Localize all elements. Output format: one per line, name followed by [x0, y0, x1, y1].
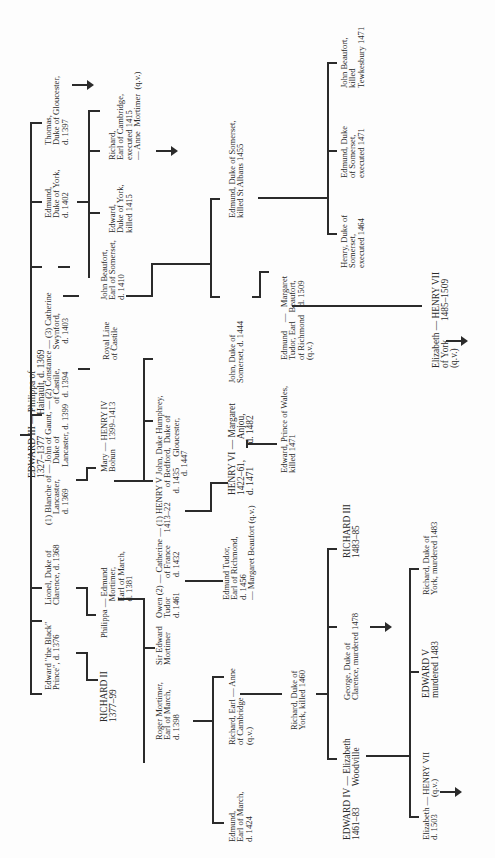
connector [126, 295, 152, 297]
node-john-beaufort: John Beaufort, Earl of Somerset, d. 1410 [100, 240, 125, 300]
node-edmund-tudor-margaret: Edmund — Margaret Tudor, Earl Beaufort, … [280, 276, 314, 360]
connector [327, 626, 337, 628]
connector [327, 62, 329, 235]
continuation-arrow-icon [440, 791, 456, 793]
connector [30, 414, 42, 416]
node-richard-cambridge: Richard, Earl — Anne of Cambridge (q.v.) [228, 668, 253, 745]
node-edmund-york: Edmund, Duke of York, d. 1402 [44, 169, 69, 218]
connector [88, 150, 100, 152]
connector [86, 614, 96, 616]
connector [210, 482, 212, 512]
connector [151, 263, 153, 297]
connector [143, 358, 153, 360]
connector [409, 568, 419, 570]
connector [88, 110, 100, 112]
continuation-arrow-icon [370, 626, 386, 628]
node-henry-somerset: Henry, Duke of Somerset, executed 1464 [340, 215, 365, 268]
connector [143, 647, 155, 649]
connector [30, 122, 32, 694]
connector [259, 271, 261, 298]
connector [212, 822, 224, 824]
connector [114, 480, 144, 482]
connector [210, 198, 220, 200]
connector [143, 598, 145, 763]
connector [143, 480, 153, 482]
node-edward-prince-wales: Edward, Prince of Wales, killed 1471 [280, 386, 297, 473]
continuation-arrow-icon [72, 84, 88, 86]
connector [327, 548, 329, 760]
node-elizabeth-1503: Elizabeth — HENRY VII d. 1503 (q.v.) [422, 752, 439, 840]
connector [86, 652, 88, 680]
connector [86, 467, 96, 469]
connector [247, 443, 277, 445]
connector [58, 266, 70, 268]
connector [292, 305, 422, 307]
connector [88, 110, 90, 278]
node-mary-henry-iv: Mary — HENRY IV Bohun 1399–1413 [100, 400, 117, 472]
node-john-of-gaunt-family: (1) Blanche of — John of Gaunt, — (2) Co… [44, 292, 69, 525]
connector [327, 758, 337, 760]
connector [240, 693, 282, 695]
connector [366, 755, 410, 757]
connector [63, 295, 79, 297]
continuation-arrow-icon [446, 340, 462, 342]
connector [86, 679, 98, 681]
node-edward-iv: EDWARD IV — Elizabeth 1461–83 Woodville [343, 738, 361, 840]
connector [151, 263, 211, 265]
node-richard-ii: RICHARD II 1377–99 [100, 671, 118, 722]
connector [327, 548, 337, 550]
connector [86, 467, 88, 481]
connector [30, 620, 42, 622]
node-richard-iii: RICHARD III 1483–85 [343, 504, 361, 558]
node-george-clarence: George, Duke of Clarence, murdered 1478 [343, 613, 360, 700]
node-owen-catherine-henry-v: Owen (2) — Catherine — (1) HENRY V John,… [155, 395, 189, 618]
node-royal-castile: Royal Line of Castile [102, 322, 119, 360]
connector [88, 212, 100, 214]
connector [327, 62, 337, 64]
connector [409, 671, 419, 673]
connector [86, 587, 88, 615]
node-henry-vi: HENRY VI — Margaret 1422–61, Anjou, d. 1… [228, 403, 255, 495]
node-sir-edward-mortimer: Sir Edward Mortimer [155, 626, 172, 665]
connector [259, 271, 269, 273]
connector [30, 201, 42, 203]
node-philippa-mortimer: Philippa — Edmund Mortimer, Earl of Marc… [100, 551, 134, 638]
connector [409, 568, 411, 818]
connector [185, 510, 211, 512]
continuation-arrow-icon [156, 150, 172, 152]
connector [327, 233, 337, 235]
connector [327, 150, 337, 152]
node-roger-mortimer: Roger Mortimer, Earl of March, d. 1398 [155, 682, 180, 740]
connector [118, 598, 144, 600]
connector [143, 420, 153, 422]
node-thomas-gloucester: Thomas, Duke of Gloucester, d. 1397 [44, 76, 69, 145]
connector [30, 266, 42, 268]
connector [212, 676, 214, 824]
node-richard-york-1483: Richard, Duke of York, murdered 1483 [422, 522, 439, 595]
family-tree-diagram: EDWARD III — Philippa of 1327–1377 Haina… [0, 0, 495, 858]
node-john-beaufort-tewkesbury: John Beaufort, killed Tewkesbury 1471 [340, 27, 365, 88]
connector [20, 434, 32, 436]
connector [258, 197, 328, 199]
node-edmund-march: Edmund, Earl of March, d. 1424 [228, 792, 253, 842]
connector [409, 816, 419, 818]
connector [246, 440, 248, 448]
connector [76, 479, 86, 481]
node-edmund-somerset: Edmund, Duke of Somerset, killed St Alba… [228, 120, 245, 218]
node-edward-v: EDWARD V murdered 1483 [422, 641, 440, 698]
connector [30, 122, 42, 124]
node-edmund-duke-somerset: Edmund, Duke of Somerset, executed 1471 [340, 126, 365, 178]
connector [78, 368, 90, 370]
node-edward-york: Edward, Duke of York, killed 1415 [108, 184, 133, 233]
connector [210, 482, 228, 484]
connector [210, 198, 212, 298]
connector [30, 587, 42, 589]
connector [193, 720, 213, 722]
node-black-prince: Edward "the Black" Prince", d. 1376 [44, 621, 61, 690]
node-edmund-tudor: Edmund Tudor, Earl of Richmond, d. 1456 … [222, 506, 256, 601]
node-richard-york: Richard, Duke of York, killed 1460 [290, 670, 307, 730]
connector [30, 693, 42, 695]
node-lionel: Lionel, Duke of Clarence, d. 1368 [44, 544, 61, 605]
connector [212, 676, 224, 678]
connector [210, 296, 220, 298]
